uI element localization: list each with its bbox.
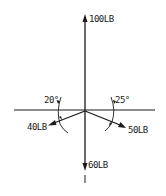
force-diagram: 100LB 60LB 40LB 50LB 20° 25°	[0, 0, 166, 196]
angle-25-label: 25°	[115, 95, 130, 105]
arc-arrowhead-icon	[59, 116, 62, 120]
angle-20-indicator: 20°	[44, 95, 68, 133]
arrowhead-right-icon	[118, 122, 126, 128]
arrowhead-down-icon	[83, 163, 88, 171]
force-60lb: 60LB	[83, 111, 108, 183]
angle-25-indicator: 25°	[105, 95, 130, 131]
force-100lb: 100LB	[83, 14, 114, 111]
angle-20-label: 20°	[44, 95, 59, 105]
force-100lb-label: 100LB	[89, 14, 114, 24]
arrowhead-up-icon	[83, 14, 88, 22]
force-40lb: 40LB	[27, 111, 85, 132]
force-60lb-label: 60LB	[88, 160, 108, 170]
force-40lb-label: 40LB	[27, 122, 47, 132]
force-50lb: 50LB	[85, 111, 148, 135]
arrowhead-left-icon	[48, 120, 57, 126]
force-50lb-label: 50LB	[128, 125, 148, 135]
